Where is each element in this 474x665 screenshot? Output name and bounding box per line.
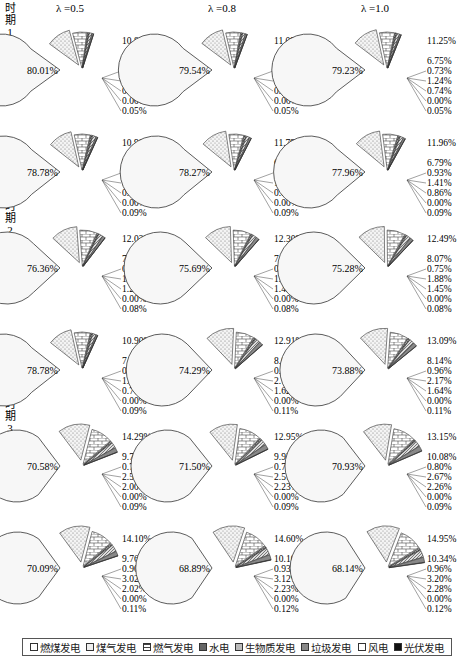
slice-label: 8.14% bbox=[427, 356, 452, 366]
slice-label: 0.08% bbox=[427, 304, 452, 314]
column-header: λ =1.0 bbox=[361, 2, 390, 14]
slice-label: 6.75% bbox=[427, 56, 452, 66]
slice-label: 77.96% bbox=[332, 167, 363, 178]
slice-label: 0.73% bbox=[427, 66, 452, 76]
slice-label: 13.09% bbox=[427, 336, 456, 346]
pie-chart: 70.58%14.29%9.70%0.77%2.57%2.00%0.00%0.0… bbox=[0, 424, 151, 512]
pie-chart: 73.88%13.09%8.14%0.96%2.17%1.64%0.00%0.1… bbox=[280, 328, 456, 416]
legend-item: 风电 bbox=[358, 640, 388, 655]
slice-label: 70.93% bbox=[332, 461, 363, 472]
legend-swatch-icon bbox=[30, 643, 38, 651]
slice-label: 0.08% bbox=[274, 304, 299, 314]
slice-label: 0.00% bbox=[427, 492, 452, 502]
pie-chart: 70.93%13.15%10.08%0.80%2.67%2.26%0.00%0.… bbox=[285, 424, 456, 512]
slice-label: 0.05% bbox=[274, 106, 299, 116]
pie-chart: 70.09%14.10%9.76%0.90%3.02%2.02%0.00%0.1… bbox=[0, 526, 151, 614]
slice-label: 1.45% bbox=[427, 284, 452, 294]
slice-label: 0.74% bbox=[427, 86, 452, 96]
pie-chart: 75.69%12.30%7.95%0.73%1.82%1.43%0.00%0.0… bbox=[124, 227, 303, 314]
slice-label: 0.09% bbox=[122, 502, 147, 512]
slice-label: 0.00% bbox=[427, 96, 452, 106]
slice-label: 0.00% bbox=[274, 594, 299, 604]
slice bbox=[210, 424, 237, 460]
slice-label: 0.09% bbox=[122, 406, 147, 416]
slice-label: 0.86% bbox=[427, 188, 452, 198]
legend-item: 燃煤发电 bbox=[30, 640, 80, 655]
slice-label: 71.50% bbox=[179, 461, 210, 472]
slice bbox=[53, 227, 80, 263]
slice bbox=[359, 226, 385, 262]
legend-label: 燃气发电 bbox=[153, 640, 193, 655]
legend-swatch-icon bbox=[301, 643, 309, 651]
slice-label: 3.20% bbox=[427, 574, 452, 584]
slice-label: 0.05% bbox=[122, 106, 147, 116]
chart-canvas: λ =0.5λ =0.8λ =1.0 时期1下限上限时期2下限上限时期3下限上限… bbox=[0, 0, 474, 636]
slice-label: 78.78% bbox=[27, 167, 58, 178]
legend-item: 燃气发电 bbox=[143, 640, 193, 655]
slice bbox=[364, 424, 392, 460]
slice-label: 8.07% bbox=[427, 254, 452, 264]
slice-label: 78.78% bbox=[27, 365, 58, 376]
slice-label: 0.96% bbox=[427, 564, 452, 574]
slice-label: 0.00% bbox=[427, 396, 452, 406]
period-label: 时 bbox=[5, 2, 16, 14]
legend-label: 光伏发电 bbox=[404, 640, 444, 655]
slice bbox=[206, 227, 232, 263]
legend-label: 水电 bbox=[209, 640, 229, 655]
slice-label: 14.60% bbox=[274, 534, 303, 544]
slice-label: 70.58% bbox=[27, 461, 58, 472]
slice-label: 0.05% bbox=[427, 106, 452, 116]
period-label: 期 bbox=[5, 410, 16, 422]
slice-label: 0.93% bbox=[427, 168, 452, 178]
slice-label: 2.26% bbox=[427, 482, 452, 492]
slice-label: 74.29% bbox=[179, 365, 210, 376]
slice-label: 0.09% bbox=[427, 208, 452, 218]
slice-label: 79.54% bbox=[179, 65, 210, 76]
legend-swatch-icon bbox=[86, 643, 94, 651]
pie-chart: 68.14%14.95%10.34%0.96%3.20%2.28%0.00%0.… bbox=[290, 526, 456, 614]
slice-label: 0.00% bbox=[427, 198, 452, 208]
legend-item: 煤气发电 bbox=[86, 640, 136, 655]
slice-label: 11.25% bbox=[427, 36, 456, 46]
slice-label: 0.00% bbox=[122, 594, 147, 604]
slice-label: 13.15% bbox=[427, 432, 456, 442]
slice-label: 0.75% bbox=[427, 264, 452, 274]
slice bbox=[360, 328, 387, 364]
legend-label: 生物质发电 bbox=[245, 640, 295, 655]
slice bbox=[203, 131, 231, 167]
slice-label: 75.69% bbox=[179, 263, 210, 274]
slice-label: 78.27% bbox=[179, 167, 210, 178]
pie-chart: 77.96%11.96%6.79%0.93%1.41%0.86%0.00%0.0… bbox=[274, 131, 456, 218]
pie-chart: 71.50%12.95%9.93%0.79%2.51%2.23%0.00%0.0… bbox=[131, 424, 303, 512]
period-label: 期 bbox=[5, 212, 16, 224]
slice-label: 0.00% bbox=[427, 594, 452, 604]
slice-label: 68.14% bbox=[332, 563, 363, 574]
slice-label: 6.79% bbox=[427, 158, 452, 168]
slice-label: 14.95% bbox=[427, 534, 456, 544]
slice-label: 0.00% bbox=[274, 492, 299, 502]
legend-swatch-icon bbox=[394, 643, 402, 651]
legend-swatch-icon bbox=[199, 643, 207, 651]
slice bbox=[356, 131, 384, 167]
legend-label: 燃煤发电 bbox=[40, 640, 80, 655]
slice-label: 0.09% bbox=[427, 502, 452, 512]
slice bbox=[207, 328, 234, 364]
slice-label: 73.88% bbox=[332, 365, 363, 376]
slice-label: 12.49% bbox=[427, 234, 456, 244]
slice-label: 2.17% bbox=[427, 376, 452, 386]
slice-label: 10.08% bbox=[427, 452, 456, 462]
slice-label: 0.12% bbox=[274, 604, 299, 614]
slice-label: 0.80% bbox=[427, 462, 452, 472]
legend-item: 水电 bbox=[199, 640, 229, 655]
slice-label: 0.11% bbox=[274, 406, 298, 416]
slice-label: 1.88% bbox=[427, 274, 452, 284]
slice-label: 70.09% bbox=[27, 563, 58, 574]
slice bbox=[355, 30, 384, 65]
slice-label: 0.09% bbox=[274, 502, 299, 512]
column-header: λ =0.8 bbox=[208, 2, 237, 14]
legend-swatch-icon bbox=[143, 643, 151, 651]
pie-chart-grid: λ =0.5λ =0.8λ =1.0 时期1下限上限时期2下限上限时期3下限上限… bbox=[0, 0, 474, 665]
slice-label: 1.64% bbox=[427, 386, 452, 396]
slice-label: 0.12% bbox=[427, 604, 452, 614]
slice-label: 75.28% bbox=[332, 263, 363, 274]
